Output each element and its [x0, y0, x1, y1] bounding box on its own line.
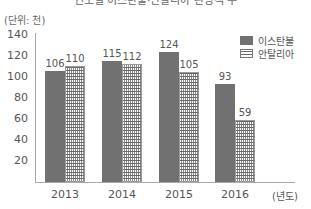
- bar-value-label: 110: [62, 53, 88, 64]
- x-tick-label: 2013: [40, 188, 90, 201]
- legend-label: 안탈리아: [258, 46, 294, 61]
- bar-antalya-2016: [235, 120, 255, 182]
- bar-value-label: 112: [119, 51, 145, 62]
- bar-value-label: 93: [212, 71, 238, 82]
- x-axis-unit: (년도): [272, 188, 298, 203]
- y-axis-line: [35, 33, 36, 182]
- x-tick-label: 2016: [210, 188, 260, 201]
- y-tick-label: 40: [0, 133, 28, 146]
- x-tick-label: 2014: [97, 188, 147, 201]
- legend-swatch-solid-icon: [240, 36, 253, 45]
- bar-istanbul-2015: [159, 52, 179, 182]
- bar-istanbul-2013: [45, 71, 65, 182]
- y-tick-label: 140: [0, 28, 28, 41]
- chart-title: 연도별 이스탄불·안탈리아 관광객 수: [0, 0, 311, 7]
- unit-label: (단위: 천): [4, 12, 45, 27]
- bar-antalya-2013: [65, 66, 85, 182]
- bar-value-label: 59: [232, 107, 258, 118]
- bar-antalya-2015: [179, 72, 199, 182]
- y-tick-label: 120: [0, 49, 28, 62]
- y-tick-label: 100: [0, 70, 28, 83]
- y-tick-label: 20: [0, 154, 28, 167]
- y-tick-label: 80: [0, 91, 28, 104]
- bar-value-label: 124: [156, 39, 182, 50]
- bar-value-label: 105: [176, 59, 202, 70]
- legend-swatch-hatched-icon: [240, 49, 253, 58]
- bar-istanbul-2016: [215, 84, 235, 182]
- x-axis-line: [35, 182, 295, 183]
- x-tick-label: 2015: [154, 188, 204, 201]
- bar-istanbul-2014: [102, 61, 122, 182]
- legend-item-antalya: 안탈리아: [240, 46, 294, 61]
- bar-antalya-2014: [122, 64, 142, 182]
- y-tick-label: 60: [0, 112, 28, 125]
